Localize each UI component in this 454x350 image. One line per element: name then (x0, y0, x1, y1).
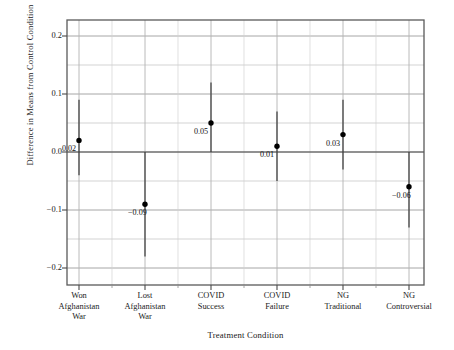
x-tick-label-line: Controversial (367, 302, 451, 313)
data-point-label: 0.05 (194, 128, 208, 136)
x-tick-label-line: NG (367, 291, 451, 302)
data-point-label: −0.09 (128, 209, 147, 217)
data-point (274, 144, 279, 149)
data-point (76, 138, 81, 143)
x-axis-ticks (79, 285, 409, 290)
data-point-label: −0.06 (392, 192, 411, 200)
x-tick-label-line: War (103, 312, 187, 323)
data-point (406, 184, 411, 189)
data-point (340, 132, 345, 137)
data-point (142, 202, 147, 207)
x-tick-label: NGControversial (367, 291, 451, 312)
data-point-label: 0.01 (260, 151, 274, 159)
data-point-label: 0.02 (62, 145, 76, 153)
data-point-label: 0.03 (326, 140, 340, 148)
chart-figure: Difference in Means from Control Conditi… (0, 0, 454, 350)
data-point (208, 120, 213, 125)
